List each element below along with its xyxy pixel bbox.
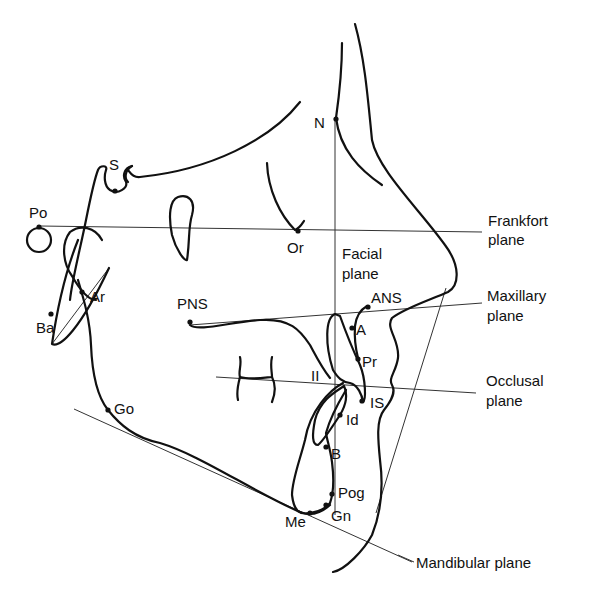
label-Gn: Gn bbox=[331, 507, 351, 524]
label-mandibular: Mandibular plane bbox=[416, 554, 531, 571]
label-frankfort-1: Frankfort bbox=[488, 212, 549, 229]
label-Or: Or bbox=[287, 239, 304, 256]
label-maxillary-2: plane bbox=[487, 307, 524, 324]
point-B bbox=[323, 444, 328, 449]
point-N bbox=[333, 116, 338, 121]
label-N: N bbox=[314, 114, 325, 131]
orbit-contour bbox=[267, 163, 304, 230]
label-frankfort-2: plane bbox=[488, 231, 525, 248]
point-Pr bbox=[355, 356, 360, 361]
sella-turcica bbox=[70, 166, 132, 300]
point-Me bbox=[307, 510, 312, 515]
label-IS: IS bbox=[370, 394, 384, 411]
point-Go bbox=[105, 407, 110, 412]
porion-ring bbox=[27, 228, 51, 252]
point-Or bbox=[295, 228, 300, 233]
label-Ar: Ar bbox=[90, 288, 105, 305]
point-PNS bbox=[187, 319, 192, 324]
mandibular-plane-leader bbox=[398, 555, 414, 562]
label-occlusal-1: Occlusal bbox=[486, 372, 544, 389]
label-B: B bbox=[331, 445, 341, 462]
cephalometric-diagram: N S Po Or Ar Ba PNS ANS A Pr II IS Id B … bbox=[0, 0, 599, 597]
label-Go: Go bbox=[114, 400, 134, 417]
label-facial-1: Facial bbox=[342, 245, 382, 262]
label-ANS: ANS bbox=[371, 289, 402, 306]
profile-tangent-line bbox=[376, 288, 446, 513]
label-Pr: Pr bbox=[362, 353, 377, 370]
point-Pog bbox=[329, 491, 334, 496]
frankfort-plane-line bbox=[40, 226, 482, 232]
point-ANS bbox=[365, 304, 370, 309]
label-Me: Me bbox=[285, 513, 306, 530]
upper-molar bbox=[239, 357, 272, 379]
palate-contour bbox=[190, 320, 330, 378]
point-Id bbox=[337, 412, 342, 417]
point-Ba bbox=[48, 311, 53, 316]
label-facial-2: plane bbox=[342, 265, 379, 282]
label-maxillary-1: Maxillary bbox=[487, 287, 547, 304]
label-II: II bbox=[311, 367, 319, 384]
label-PNS: PNS bbox=[177, 295, 208, 312]
label-Pog: Pog bbox=[338, 484, 365, 501]
label-A: A bbox=[356, 321, 366, 338]
label-Po: Po bbox=[29, 204, 47, 221]
label-occlusal-2: plane bbox=[486, 392, 523, 409]
point-IS bbox=[359, 398, 364, 403]
point-S bbox=[112, 188, 117, 193]
point-Gn bbox=[323, 502, 328, 507]
label-S: S bbox=[109, 156, 119, 173]
point-A bbox=[349, 325, 354, 330]
ramus-outline bbox=[78, 280, 330, 514]
label-Id: Id bbox=[346, 411, 359, 428]
point-Ar bbox=[79, 289, 84, 294]
point-Po bbox=[36, 224, 41, 229]
ar-ba-line bbox=[52, 268, 109, 344]
skull-outline bbox=[128, 102, 300, 177]
label-Ba: Ba bbox=[36, 319, 55, 336]
nasal-bone-inner bbox=[336, 43, 382, 185]
